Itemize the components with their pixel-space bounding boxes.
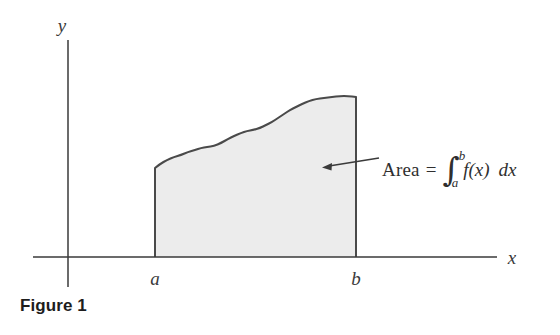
- y-axis-label: y: [56, 15, 67, 36]
- differential-expression: dx: [499, 160, 517, 179]
- x-axis-label: x: [507, 247, 517, 268]
- figure-caption: Figure 1: [20, 296, 87, 316]
- integrand-expression: f(x): [463, 160, 489, 179]
- tick-label-b: b: [351, 268, 361, 289]
- definite-integral: ∫ b a: [442, 152, 461, 186]
- integral-upper-limit: b: [459, 149, 466, 162]
- integral-limits: b a: [455, 152, 462, 186]
- tick-label-a: a: [150, 268, 160, 289]
- integral-lower-limit: a: [452, 176, 459, 189]
- figure-container: y x a b Area = ∫ b a f(x) dx Figure 1: [0, 0, 560, 335]
- area-word: Area: [382, 160, 420, 179]
- shaded-area-region: [155, 96, 356, 257]
- area-formula-annotation: Area = ∫ b a f(x) dx: [382, 152, 516, 186]
- equals-sign: =: [426, 160, 437, 179]
